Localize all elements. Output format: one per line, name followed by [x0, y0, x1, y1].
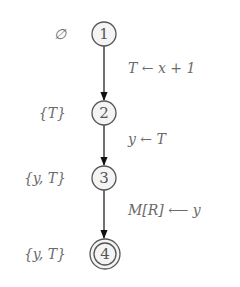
node-2: 2 — [92, 101, 116, 125]
edge-label-2-3: y ← T — [127, 131, 168, 147]
flow-graph: T ← x + 1 y ← T M[R] ⟵ y 1 2 3 4 ∅ {T} {… — [0, 0, 240, 287]
set-label-1: ∅ — [54, 26, 67, 42]
svg-text:3: 3 — [99, 169, 109, 187]
edge-label-1-2: T ← x + 1 — [128, 60, 195, 76]
svg-text:2: 2 — [99, 104, 109, 122]
set-label-2: {T} — [39, 105, 66, 121]
node-3: 3 — [92, 166, 116, 190]
svg-text:1: 1 — [99, 25, 109, 43]
node-4-accepting: 4 — [90, 239, 120, 269]
svg-text:4: 4 — [100, 245, 110, 263]
edge-label-3-4: M[R] ⟵ y — [127, 202, 202, 218]
set-label-3: {y, T} — [24, 170, 66, 186]
set-label-4: {y, T} — [24, 246, 66, 262]
node-1: 1 — [92, 22, 116, 46]
